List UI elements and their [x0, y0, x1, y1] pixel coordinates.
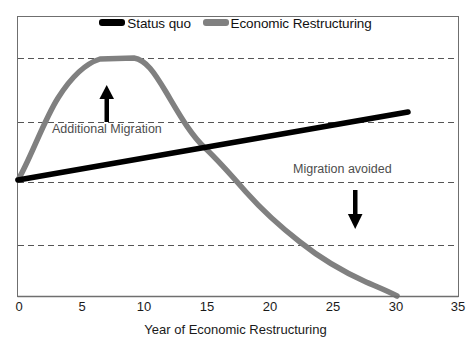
legend-swatch-economic-restructuring: [203, 19, 229, 26]
legend-item-status-quo[interactable]: Status quo: [99, 15, 191, 31]
chart-canvas: [0, 0, 471, 344]
x-tick-label-0: 0: [15, 299, 22, 314]
x-axis-title: Year of Economic Restructuring: [0, 322, 471, 337]
x-tick-label-5: 5: [78, 299, 85, 314]
legend-item-economic-restructuring[interactable]: Economic Restructuring: [203, 15, 372, 31]
x-tick-label-35: 35: [451, 299, 465, 314]
x-tick-label-30: 30: [389, 299, 403, 314]
chart-figure: Status quo Economic Restructuring Additi…: [0, 0, 471, 344]
x-tick-label-10: 10: [137, 299, 151, 314]
x-tick-label-15: 15: [200, 299, 214, 314]
annotation-migration-avoided: Migration avoided: [293, 162, 392, 176]
annotation-additional-migration: Additional Migration: [52, 122, 162, 136]
chart-legend: Status quo Economic Restructuring: [0, 14, 471, 31]
x-tick-label-20: 20: [263, 299, 277, 314]
legend-label-status-quo: Status quo: [127, 16, 191, 31]
x-tick-label-25: 25: [326, 299, 340, 314]
legend-swatch-status-quo: [99, 19, 125, 26]
legend-label-economic-restructuring: Economic Restructuring: [231, 16, 372, 31]
